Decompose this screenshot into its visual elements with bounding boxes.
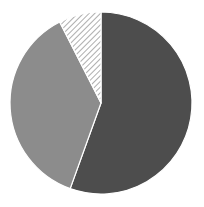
pie-chart bbox=[0, 0, 204, 207]
pie-chart-canvas bbox=[0, 0, 204, 207]
pie-slices bbox=[10, 12, 192, 194]
